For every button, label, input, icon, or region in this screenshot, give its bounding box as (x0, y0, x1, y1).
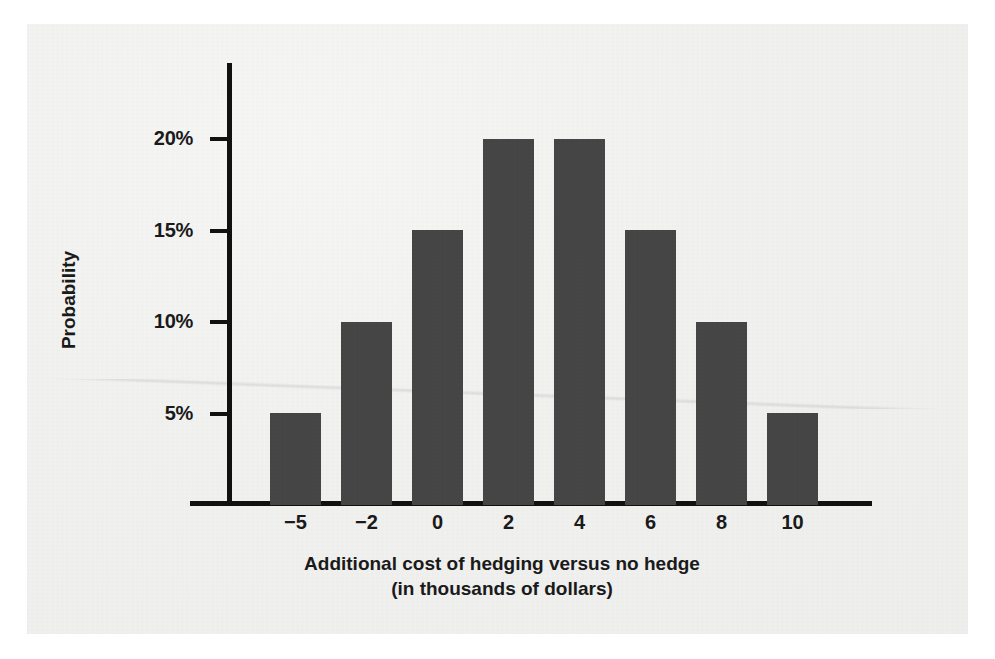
y-tick-label-5: 5% (131, 402, 193, 425)
x-tick-label-3: 2 (483, 511, 534, 534)
x-tick-label-4: 4 (554, 511, 605, 534)
y-tick-mark-20 (210, 137, 228, 141)
chart-page: 20% 15% 10% 5% Probability −5 −2 0 2 4 6… (0, 0, 995, 659)
x-tick-label-1: −2 (341, 511, 392, 534)
y-tick-mark-15 (210, 229, 228, 233)
x-tick-label-0: −5 (270, 511, 321, 534)
x-axis-title-line-1: Additional cost of hedging versus no hed… (127, 551, 877, 576)
x-tick-label-7: 10 (767, 511, 818, 534)
y-tick-mark-10 (210, 320, 228, 324)
x-tick-label-5: 6 (625, 511, 676, 534)
bar-chart-plot-area: 20% 15% 10% 5% Probability −5 −2 0 2 4 6… (27, 24, 968, 634)
x-axis-title-line-2: (in thousands of dollars) (127, 576, 877, 601)
bar-category-6 (696, 322, 747, 505)
x-tick-label-2: 0 (412, 511, 463, 534)
scanned-paper-sheet: 20% 15% 10% 5% Probability −5 −2 0 2 4 6… (27, 24, 968, 634)
y-tick-label-10: 10% (131, 310, 193, 333)
bar-category-5 (625, 230, 676, 505)
x-tick-label-6: 8 (696, 511, 747, 534)
bar-category-7 (767, 413, 818, 505)
y-tick-label-20: 20% (131, 127, 193, 150)
y-axis-line (227, 63, 232, 505)
y-axis-title: Probability (58, 200, 80, 400)
y-tick-label-15: 15% (131, 219, 193, 242)
bar-category-3 (483, 139, 534, 505)
x-axis-title: Additional cost of hedging versus no hed… (127, 551, 877, 601)
bar-category-2 (412, 230, 463, 505)
bar-category-1 (341, 322, 392, 505)
bar-category-0 (270, 413, 321, 505)
bar-category-4 (554, 139, 605, 505)
y-tick-mark-5 (210, 412, 228, 416)
